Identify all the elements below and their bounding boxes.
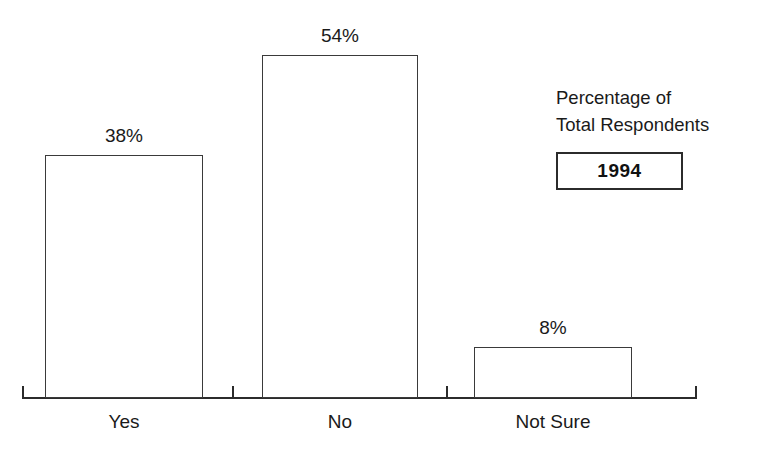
bar-value-label: 38% bbox=[45, 126, 203, 145]
chart-page: 38%Yes54%No8%Not Sure Percentage of Tota… bbox=[0, 0, 784, 454]
bar-not-sure bbox=[474, 347, 632, 398]
x-axis-category-label: No bbox=[262, 412, 418, 431]
x-axis-minor-tick bbox=[232, 386, 234, 398]
bar-yes bbox=[45, 155, 203, 398]
bar-value-label: 8% bbox=[474, 318, 632, 337]
legend: Percentage of Total Respondents 1994 bbox=[556, 84, 776, 138]
legend-year-label: 1994 bbox=[597, 160, 641, 182]
x-axis-end-tick bbox=[695, 386, 697, 398]
x-axis-category-label: Not Sure bbox=[474, 412, 632, 431]
legend-title-line-1: Percentage of bbox=[556, 84, 776, 111]
legend-title-line-2: Total Respondents bbox=[556, 111, 776, 138]
legend-year-box: 1994 bbox=[556, 152, 683, 190]
x-axis-minor-tick bbox=[446, 386, 448, 398]
x-axis-end-tick bbox=[22, 386, 24, 398]
x-axis-category-label: Yes bbox=[45, 412, 203, 431]
bar-no bbox=[262, 55, 418, 398]
bar-value-label: 54% bbox=[262, 26, 418, 45]
bar-chart-plot-area: 38%Yes54%No8%Not Sure bbox=[0, 0, 784, 454]
